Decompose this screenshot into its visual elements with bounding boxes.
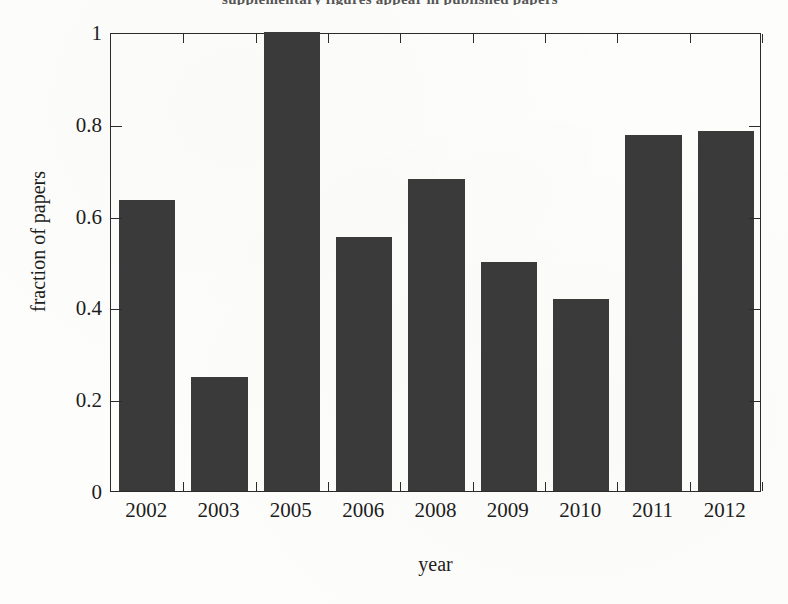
title-fragment: supplementary figures appear in publishe…	[150, 0, 630, 5]
bar	[119, 200, 175, 491]
x-axis-tick	[762, 482, 763, 491]
x-axis-tick	[617, 482, 618, 491]
x-axis-tick	[256, 482, 257, 491]
y-tick-label: 0	[32, 482, 102, 503]
y-axis-tick	[111, 401, 122, 402]
y-axis-title: fraction of papers	[27, 142, 50, 342]
x-axis-tick	[183, 34, 184, 43]
y-axis-tick	[749, 126, 760, 127]
y-axis-tick	[749, 309, 760, 310]
x-axis-tick	[183, 482, 184, 491]
x-axis-tick	[400, 34, 401, 43]
x-axis-tick	[545, 482, 546, 491]
bar	[408, 179, 464, 491]
bar	[481, 262, 537, 492]
x-axis-tick	[690, 34, 691, 43]
y-axis-tick	[111, 126, 122, 127]
bar	[264, 32, 320, 491]
y-axis-tick	[749, 401, 760, 402]
bar-series	[111, 34, 760, 491]
bar	[625, 135, 681, 491]
x-tick-label: 2012	[680, 500, 770, 521]
y-tick-label: 0.8	[32, 115, 102, 136]
x-axis-tick	[256, 34, 257, 43]
y-tick-label: 0.2	[32, 390, 102, 411]
y-axis-tick	[749, 218, 760, 219]
y-tick-label: 1	[32, 23, 102, 44]
x-axis-tick	[473, 482, 474, 491]
x-axis-tick	[617, 34, 618, 43]
y-axis-tick	[111, 218, 122, 219]
x-axis-tick	[400, 482, 401, 491]
figure-canvas: supplementary figures appear in publishe…	[0, 0, 788, 604]
x-axis-tick	[473, 34, 474, 43]
y-axis-tick	[111, 309, 122, 310]
x-axis-tick	[328, 34, 329, 43]
x-axis-tick	[328, 482, 329, 491]
bar	[553, 299, 609, 491]
bar	[336, 237, 392, 491]
x-axis-tick	[690, 482, 691, 491]
x-axis-title: year	[110, 553, 761, 576]
x-axis-tick	[545, 34, 546, 43]
bar	[191, 377, 247, 491]
x-axis-tick	[762, 34, 763, 43]
x-axis-tick-labels: 200220032005200620082009201020112012	[110, 500, 761, 530]
bar	[698, 131, 754, 491]
plot-area	[110, 33, 761, 492]
